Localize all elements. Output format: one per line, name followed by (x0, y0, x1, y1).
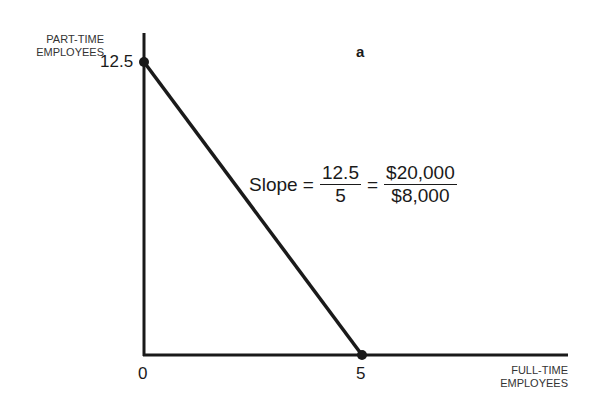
x-tick-5: 5 (356, 364, 365, 384)
x-axis-label-line1: FULL-TIME (468, 364, 568, 377)
equals-sign: = (367, 174, 378, 196)
point-x-intercept (357, 350, 367, 360)
y-axis-label: PART-TIME EMPLOYEES (4, 33, 104, 59)
fraction-2-denominator: $8,000 (389, 185, 451, 207)
fraction-1-numerator: 12.5 (320, 162, 361, 185)
slope-annotation: Slope = 12.5 5 = $20,000 $8,000 (249, 162, 463, 207)
budget-line (144, 62, 362, 355)
x-axis-label-line2: EMPLOYEES (468, 377, 568, 390)
point-y-intercept (139, 57, 149, 67)
slope-fraction-1: 12.5 5 (320, 162, 361, 207)
y-axis-label-line2: EMPLOYEES (4, 46, 104, 59)
fraction-1-denominator: 5 (333, 185, 348, 207)
y-tick-12-5: 12.5 (100, 52, 133, 72)
fraction-2-numerator: $20,000 (384, 162, 457, 185)
x-tick-0: 0 (138, 364, 147, 384)
y-axis-label-line1: PART-TIME (4, 33, 104, 46)
slope-fraction-2: $20,000 $8,000 (384, 162, 457, 207)
x-axis-label: FULL-TIME EMPLOYEES (468, 364, 568, 390)
slope-prefix: Slope = (249, 174, 314, 196)
panel-label: a (356, 43, 364, 60)
